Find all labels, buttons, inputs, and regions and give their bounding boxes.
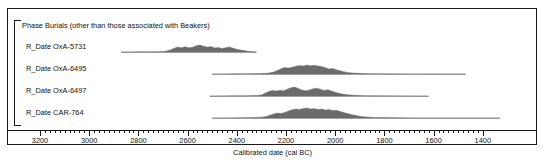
axis-tick-minor xyxy=(227,130,228,133)
axis-tick-minor xyxy=(365,130,366,133)
axis-tick-minor xyxy=(281,130,282,133)
axis-title: Calibrated date (cal BC) xyxy=(0,148,545,157)
axis-tick-minor xyxy=(448,130,449,133)
axis-tick-minor xyxy=(330,130,331,133)
axis-tick-minor xyxy=(468,130,469,133)
axis-tick-minor xyxy=(340,130,341,133)
axis-tick-minor xyxy=(84,130,85,133)
axis-tick-minor xyxy=(153,130,154,133)
axis-tick-minor xyxy=(429,130,430,133)
axis-tick-minor xyxy=(232,130,233,133)
axis-tick-minor xyxy=(183,130,184,133)
axis-tick-minor xyxy=(50,130,51,133)
axis-tick-minor xyxy=(271,130,272,133)
axis-tick-minor xyxy=(414,130,415,133)
axis-tick-minor xyxy=(325,130,326,133)
axis-tick-minor xyxy=(478,130,479,133)
axis-tick-label: 2000 xyxy=(327,136,343,145)
axis-tick-minor xyxy=(394,130,395,133)
axis-tick-minor xyxy=(379,130,380,133)
axis-tick-minor xyxy=(222,130,223,133)
axis-tick-label: 2400 xyxy=(229,136,245,145)
axis-tick-minor xyxy=(360,130,361,133)
distribution-area xyxy=(210,87,429,96)
axis-tick-label: 3200 xyxy=(32,136,48,145)
row-label: R_Date OxA-5731 xyxy=(26,42,86,51)
axis-tick-minor xyxy=(473,130,474,133)
axis-tick-minor xyxy=(463,130,464,133)
axis-tick-label: 2800 xyxy=(130,136,146,145)
axis-tick-minor xyxy=(409,130,410,133)
axis-tick-minor xyxy=(129,130,130,133)
axis-tick-minor xyxy=(458,130,459,133)
axis-tick-minor xyxy=(355,130,356,133)
axis-tick-minor xyxy=(320,130,321,133)
axis-tick-minor xyxy=(266,130,267,133)
axis-tick-minor xyxy=(148,130,149,133)
axis-tick-minor xyxy=(55,130,56,133)
axis-tick-minor xyxy=(242,130,243,133)
axis-tick-minor xyxy=(311,130,312,133)
axis-tick-minor xyxy=(109,130,110,133)
axis-tick-minor xyxy=(276,130,277,133)
row-label: R_Date OxA-6495 xyxy=(26,64,86,73)
axis-tick-minor xyxy=(306,130,307,133)
axis-tick-minor xyxy=(79,130,80,133)
row-label: R_Date OxA-6497 xyxy=(26,86,86,95)
axis-tick-minor xyxy=(202,130,203,133)
row-label: R_Date CAR-764 xyxy=(26,108,84,117)
axis-tick-minor xyxy=(45,130,46,133)
axis-tick-minor xyxy=(163,130,164,133)
axis-tick-minor xyxy=(178,130,179,133)
axis-tick-minor xyxy=(301,130,302,133)
axis-tick-minor xyxy=(316,130,317,133)
axis-tick-minor xyxy=(158,130,159,133)
axis-tick-label: 2200 xyxy=(278,136,294,145)
axis-tick-minor xyxy=(453,130,454,133)
axis-tick-minor xyxy=(252,130,253,133)
axis-tick-minor xyxy=(212,130,213,133)
axis-tick-minor xyxy=(124,130,125,133)
phase-title: Phase Burials (other than those associat… xyxy=(22,21,210,30)
axis-tick-minor xyxy=(168,130,169,133)
axis-tick-label: 2600 xyxy=(179,136,195,145)
axis-tick-minor xyxy=(424,130,425,133)
axis-tick-minor xyxy=(439,130,440,133)
axis-tick-minor xyxy=(217,130,218,133)
axis-tick-minor xyxy=(370,130,371,133)
axis-tick-label: 1600 xyxy=(425,136,441,145)
axis-tick-minor xyxy=(119,130,120,133)
axis-tick-minor xyxy=(399,130,400,133)
axis-tick-minor xyxy=(133,130,134,133)
axis-tick-minor xyxy=(99,130,100,133)
axis-tick-minor xyxy=(247,130,248,133)
axis-tick-minor xyxy=(114,130,115,133)
axis-tick-minor xyxy=(197,130,198,133)
axis-tick-minor xyxy=(104,130,105,133)
axis-tick-minor xyxy=(94,130,95,133)
axis-tick-minor xyxy=(291,130,292,133)
axis-tick-minor xyxy=(256,130,257,133)
axis-tick-minor xyxy=(74,130,75,133)
axis-tick-minor xyxy=(345,130,346,133)
distribution-area xyxy=(212,65,465,74)
axis-tick-minor xyxy=(350,130,351,133)
axis-tick-minor xyxy=(207,130,208,133)
axis-tick-label: 1800 xyxy=(376,136,392,145)
axis-tick-minor xyxy=(296,130,297,133)
axis-tick-minor xyxy=(261,130,262,133)
calibration-plot: Phase Burials (other than those associat… xyxy=(0,0,545,162)
distribution-area xyxy=(121,45,256,52)
distribution-area xyxy=(212,108,500,118)
axis-tick-minor xyxy=(173,130,174,133)
axis-tick-minor xyxy=(193,130,194,133)
axis-tick-minor xyxy=(419,130,420,133)
axis-tick-minor xyxy=(65,130,66,133)
axis-tick-minor xyxy=(143,130,144,133)
axis-tick-minor xyxy=(404,130,405,133)
axis-tick-minor xyxy=(70,130,71,133)
axis-tick-label: 3000 xyxy=(81,136,97,145)
axis-tick-minor xyxy=(60,130,61,133)
axis-tick-label: 1400 xyxy=(475,136,491,145)
axis-tick-minor xyxy=(375,130,376,133)
